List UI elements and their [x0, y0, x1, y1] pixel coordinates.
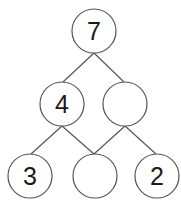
number-pyramid-diagram: 7 4 3 2 — [0, 0, 181, 205]
node-mid-right — [103, 82, 147, 126]
node-value: 7 — [87, 17, 101, 45]
node-value: 2 — [150, 162, 164, 190]
diagram-svg: 7 4 3 2 — [0, 0, 181, 205]
node-bottom-left: 3 — [8, 154, 52, 198]
node-mid-left: 4 — [40, 82, 84, 126]
node-bottom-middle — [73, 154, 117, 198]
node-value: 3 — [23, 162, 37, 190]
edge-top-to-mid-left — [63, 53, 94, 82]
node-circle-empty — [73, 154, 117, 198]
node-value: 4 — [55, 90, 69, 118]
node-top: 7 — [72, 9, 116, 53]
edge-mid-left-to-bottom-left — [31, 126, 62, 154]
edge-mid-right-to-bottom-middle — [94, 126, 125, 154]
edge-top-to-mid-right — [94, 53, 124, 82]
edge-mid-right-to-bottom-right — [125, 126, 156, 154]
node-circle-empty — [103, 82, 147, 126]
node-bottom-right: 2 — [135, 154, 179, 198]
edge-mid-left-to-bottom-middle — [62, 126, 94, 154]
